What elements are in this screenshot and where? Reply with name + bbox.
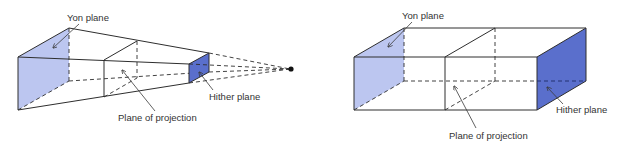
perspective-view-volume: Yon plane Plane of projection Hither pla… xyxy=(18,12,294,123)
projection-plane-label: Plane of projection xyxy=(449,130,528,141)
hither-plane-shape xyxy=(189,53,209,83)
projection-plane-arrow xyxy=(454,86,476,128)
yon-plane-label: Yon plane xyxy=(67,12,109,23)
center-of-projection-point xyxy=(288,66,293,71)
hither-plane-shape xyxy=(537,28,586,110)
projection-plane-arrow xyxy=(122,70,155,111)
parallel-view-volume: Yon plane Plane of projection Hither pla… xyxy=(354,10,607,141)
hither-plane-label: Hither plane xyxy=(209,91,260,102)
hither-plane-arrow xyxy=(199,72,213,90)
view-volume-diagram: Yon plane Plane of projection Hither pla… xyxy=(0,0,624,142)
yon-plane-label: Yon plane xyxy=(402,10,444,21)
projection-plane-label: Plane of projection xyxy=(118,112,197,123)
hither-plane-label: Hither plane xyxy=(556,104,607,115)
yon-plane-shape xyxy=(354,28,404,110)
